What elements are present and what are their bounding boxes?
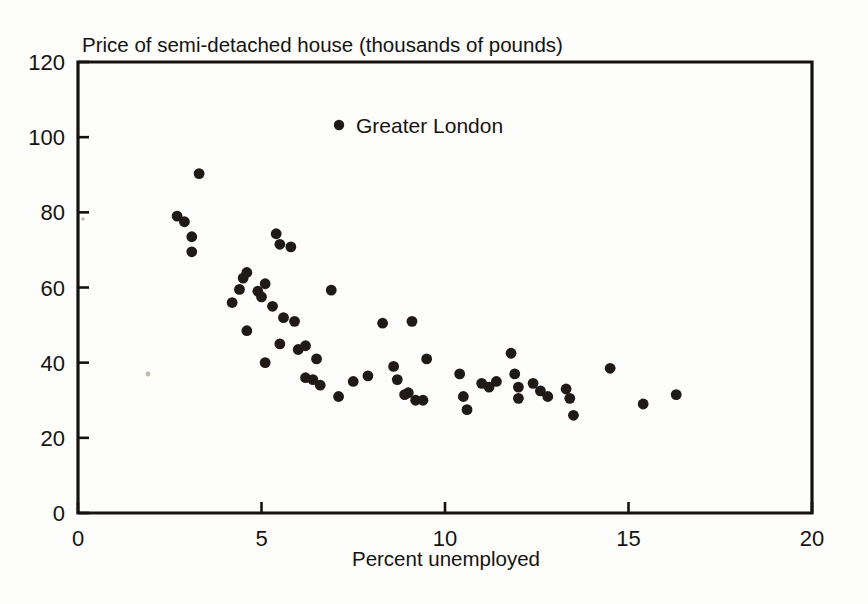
data-point	[564, 393, 575, 404]
data-point	[333, 391, 344, 402]
data-point	[234, 284, 245, 295]
data-point	[194, 168, 205, 179]
data-point	[561, 384, 572, 395]
data-points-group	[172, 168, 682, 420]
data-point	[285, 242, 296, 253]
chart-title: Price of semi-detached house (thousands …	[82, 33, 563, 56]
plot-canvas: 05101520 020406080100120 Price of semi-d…	[0, 0, 868, 604]
x-axis-title: Percent unemployed	[352, 547, 540, 570]
data-point	[179, 216, 190, 227]
data-point	[271, 228, 282, 239]
data-point	[186, 246, 197, 257]
data-point	[671, 389, 682, 400]
data-point	[458, 391, 469, 402]
data-point	[407, 316, 418, 327]
data-point	[377, 318, 388, 329]
y-tick-label: 0	[53, 501, 65, 526]
y-axis-ticks: 020406080100120	[28, 50, 89, 526]
x-tick-label: 20	[800, 526, 824, 551]
data-point	[260, 278, 271, 289]
data-point	[274, 239, 285, 250]
data-point	[256, 291, 267, 302]
data-point	[421, 354, 432, 365]
data-point	[462, 404, 473, 415]
x-tick-label: 15	[616, 526, 640, 551]
data-point	[605, 363, 616, 374]
legend-label: Greater London	[356, 114, 503, 137]
data-point	[392, 374, 403, 385]
data-point	[491, 376, 502, 387]
paper-speck	[81, 217, 85, 221]
data-point	[315, 380, 326, 391]
data-point	[388, 361, 399, 372]
data-point	[300, 340, 311, 351]
y-tick-label: 60	[41, 276, 65, 301]
data-point	[278, 312, 289, 323]
x-axis-ticks: 05101520	[72, 502, 824, 551]
data-point	[260, 357, 271, 368]
data-point	[363, 370, 374, 381]
data-point	[241, 267, 252, 278]
data-point	[509, 369, 520, 380]
data-point	[418, 395, 429, 406]
scatter-plot-figure: 05101520 020406080100120 Price of semi-d…	[0, 0, 868, 604]
legend-marker-icon	[334, 120, 344, 130]
data-point	[513, 393, 524, 404]
data-point	[454, 369, 465, 380]
x-tick-label: 0	[72, 526, 84, 551]
paper-speck	[146, 372, 151, 377]
data-point	[506, 348, 517, 359]
data-point	[274, 338, 285, 349]
data-point	[289, 316, 300, 327]
data-point	[186, 231, 197, 242]
data-point	[227, 297, 238, 308]
y-tick-label: 100	[28, 125, 65, 150]
y-tick-label: 120	[28, 50, 65, 75]
data-point	[638, 399, 649, 410]
data-point	[267, 301, 278, 312]
y-tick-label: 80	[41, 200, 65, 225]
data-point	[311, 354, 322, 365]
data-point	[326, 285, 337, 296]
y-tick-label: 20	[41, 426, 65, 451]
data-point	[568, 410, 579, 421]
data-point	[348, 376, 359, 387]
data-point	[513, 382, 524, 393]
data-point	[241, 325, 252, 336]
y-tick-label: 40	[41, 351, 65, 376]
x-tick-label: 5	[255, 526, 267, 551]
data-point	[542, 391, 553, 402]
